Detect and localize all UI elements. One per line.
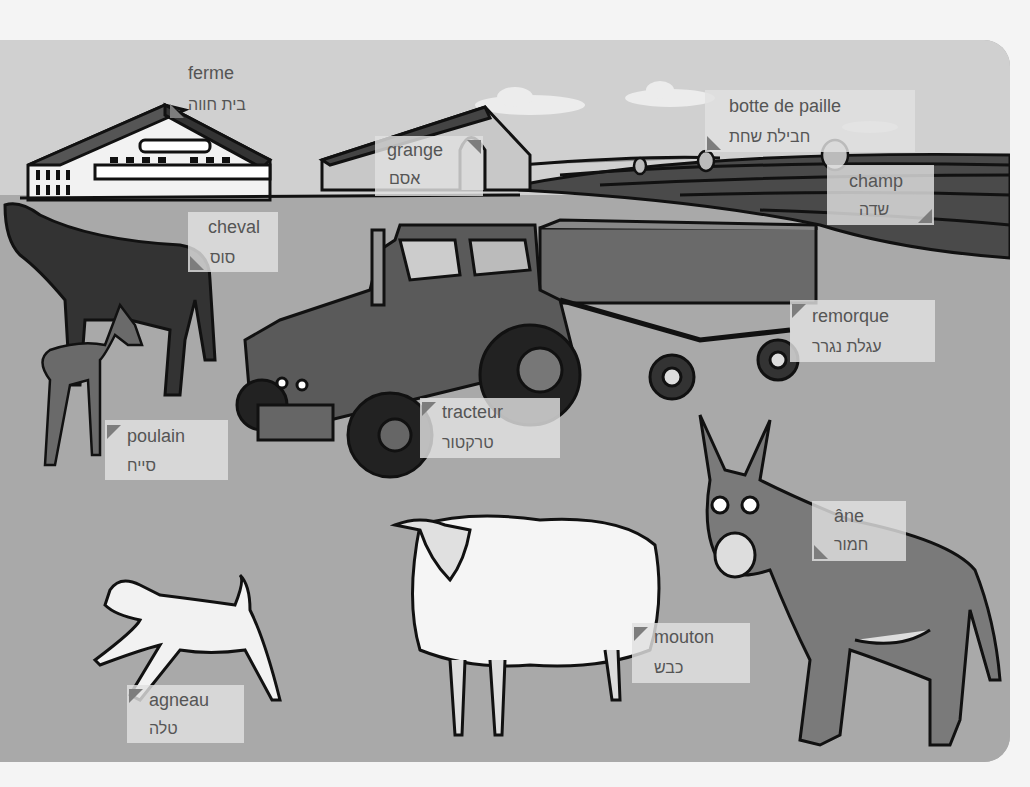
label-hebrew: אסם — [389, 170, 420, 188]
label-french: âne — [834, 506, 864, 526]
label-french: poulain — [127, 426, 185, 446]
label-hebrew: בית חווה — [188, 96, 246, 114]
label-poulain: poulain סייח — [105, 420, 228, 480]
pointer-icon — [190, 256, 204, 270]
label-french: grange — [387, 140, 443, 160]
farm-scene-panel: ferme בית חווה grange אסם botte de paill… — [0, 40, 1010, 762]
label-hebrew: שדה — [859, 201, 889, 219]
label-french: ferme — [188, 63, 234, 83]
label-mouton: mouton כבש — [632, 623, 750, 683]
label-hebrew: כבש — [654, 659, 683, 677]
label-french: champ — [849, 171, 903, 191]
pointer-icon — [634, 627, 648, 641]
label-botte-de-paille: botte de paille חבילת שחת — [705, 90, 915, 152]
pointer-icon — [467, 140, 481, 154]
label-hebrew: טלה — [149, 720, 178, 738]
pointer-icon — [170, 104, 184, 118]
label-ferme: ferme בית חווה — [168, 48, 280, 120]
label-agneau: agneau טלה — [127, 685, 244, 743]
pointer-icon — [707, 136, 721, 150]
label-french: remorque — [812, 306, 889, 326]
label-grange: grange אסם — [375, 136, 483, 196]
label-french: tracteur — [442, 402, 503, 422]
label-tracteur: tracteur טרקטור — [420, 398, 560, 458]
label-french: botte de paille — [729, 96, 841, 116]
label-french: mouton — [654, 627, 714, 647]
label-cheval: cheval סוס — [188, 212, 278, 272]
label-hebrew: חמור — [834, 536, 868, 554]
label-ane: âne חמור — [812, 501, 906, 561]
label-hebrew: חבילת שחת — [729, 128, 810, 146]
label-hebrew: טרקטור — [442, 434, 494, 452]
pointer-icon — [814, 545, 828, 559]
pointer-icon — [107, 425, 121, 439]
pointer-icon — [918, 209, 932, 223]
pointer-icon — [422, 402, 436, 416]
label-french: cheval — [208, 217, 260, 237]
label-hebrew: סייח — [127, 457, 156, 475]
label-french: agneau — [149, 690, 209, 710]
label-hebrew: עגלת נגרר — [812, 338, 882, 356]
label-remorque: remorque עגלת נגרר — [790, 300, 935, 362]
pointer-icon — [792, 304, 806, 318]
label-champ: champ שדה — [827, 165, 934, 225]
pointer-icon — [129, 689, 143, 703]
label-hebrew: סוס — [210, 249, 235, 267]
